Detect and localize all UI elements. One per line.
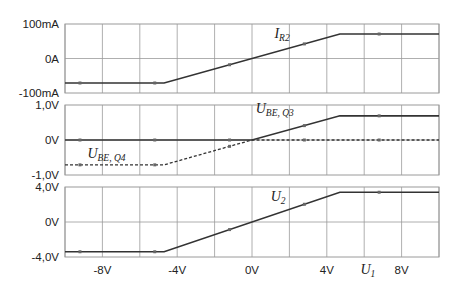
y-tick-label: 0A xyxy=(45,53,59,65)
data-marker xyxy=(303,42,306,45)
panel-ube: 1,0V0V-1,0VUBE, Q3UBE, Q4 xyxy=(32,99,440,181)
data-marker xyxy=(303,203,306,206)
panel-u2: 4,0V0V-4,0VU2 xyxy=(32,181,440,263)
x-tick-label: 8V xyxy=(395,264,409,276)
data-marker xyxy=(228,139,231,142)
series-label: UBE, Q3 xyxy=(256,101,294,118)
y-tick-label: 100mA xyxy=(23,18,60,30)
data-marker xyxy=(78,81,81,84)
data-marker xyxy=(303,124,306,127)
panel-ir2: 100mA0A-100mAIR2 xyxy=(19,18,439,99)
data-marker xyxy=(228,228,231,231)
data-marker xyxy=(153,163,156,166)
y-tick-label: 0V xyxy=(45,134,59,146)
x-axis-labels: -8V-4V0V4V8VU1 xyxy=(93,262,409,279)
data-marker xyxy=(303,139,306,142)
data-marker xyxy=(78,139,81,142)
x-tick-label: 0V xyxy=(245,264,259,276)
data-marker xyxy=(228,145,231,148)
series-label: IR2 xyxy=(273,26,289,43)
y-tick-label: -1,0V xyxy=(32,169,60,181)
y-tick-label: -4,0V xyxy=(32,251,60,263)
data-marker xyxy=(153,250,156,253)
x-axis-title: U1 xyxy=(360,262,375,279)
data-marker xyxy=(153,139,156,142)
data-marker xyxy=(78,250,81,253)
data-marker xyxy=(78,163,81,166)
data-marker xyxy=(378,191,381,194)
data-marker xyxy=(378,114,381,117)
series-label: U2 xyxy=(271,189,286,206)
data-marker xyxy=(378,139,381,142)
y-tick-label: -100mA xyxy=(19,87,60,99)
transfer-characteristic-chart: 100mA0A-100mAIR2 1,0V0V-1,0VUBE, Q3UBE, … xyxy=(0,0,457,293)
x-tick-label: -4V xyxy=(168,264,186,276)
y-tick-label: 0V xyxy=(45,216,59,228)
series-label: UBE, Q4 xyxy=(87,146,125,163)
data-marker xyxy=(228,63,231,66)
y-tick-label: 1,0V xyxy=(35,99,59,111)
data-marker xyxy=(378,33,381,36)
x-tick-label: 4V xyxy=(320,264,334,276)
data-marker xyxy=(153,81,156,84)
x-tick-label: -8V xyxy=(93,264,111,276)
y-tick-label: 4,0V xyxy=(35,181,59,193)
